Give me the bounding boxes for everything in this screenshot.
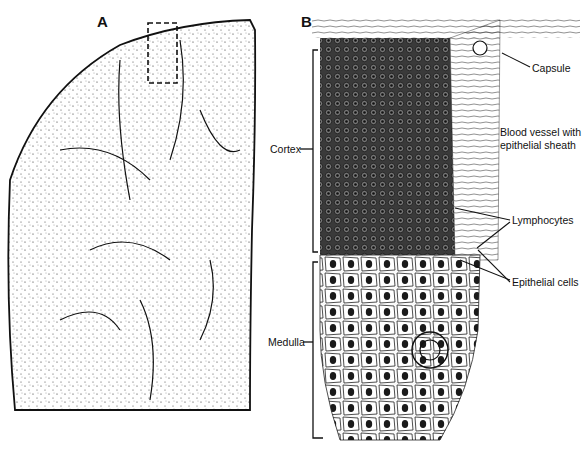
label-blood-vessel-line1: Blood vessel with	[500, 126, 581, 138]
label-blood-vessel-line2: epithelial sheath	[500, 139, 576, 151]
label-capsule: Capsule	[532, 62, 571, 74]
label-epithelial-cells: Epithelial cells	[512, 276, 579, 288]
label-cortex: Cortex	[270, 143, 301, 155]
label-medulla: Medulla	[268, 336, 305, 348]
figure-artwork	[0, 0, 587, 452]
panel-b-label: B	[301, 13, 312, 30]
region-brackets	[300, 50, 323, 438]
panel-a-lobe	[8, 20, 255, 410]
panel-b-section	[312, 16, 580, 440]
label-lymphocytes: Lymphocytes	[512, 214, 573, 226]
panel-a-label: A	[97, 13, 108, 30]
